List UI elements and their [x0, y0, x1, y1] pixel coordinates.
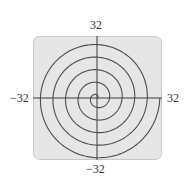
x-max-tick-label: 32 — [167, 92, 179, 104]
y-min-tick-label: −32 — [86, 163, 105, 175]
x-min-tick-label: −32 — [10, 92, 29, 104]
y-max-tick-label: 32 — [90, 19, 102, 31]
